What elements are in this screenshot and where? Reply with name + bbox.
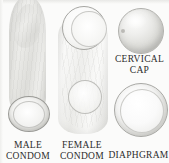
diaphragm-highlight (126, 92, 146, 105)
diaphragm-rim (114, 83, 168, 137)
caption-female-condom: FEMALE CONDOM (52, 140, 112, 162)
caption-diaphragm: DIAPHGRAM (108, 150, 169, 161)
caption-cervical-cap-line2: CAP (110, 65, 169, 76)
caption-diaphragm-line1: DIAPHGRAM (108, 150, 169, 161)
caption-female-condom-line1: FEMALE (52, 140, 112, 151)
female-condom-outer-ring (62, 6, 106, 50)
scan-edge-strip-left (0, 0, 3, 163)
caption-male-condom-line1: MALE (0, 140, 56, 151)
contraceptive-devices-figure: MALE CONDOM FEMALE CONDOM CERVICAL CAP D… (0, 0, 169, 163)
caption-female-condom-line2: CONDOM (52, 151, 112, 162)
cervical-cap-rim-notch (121, 29, 125, 33)
male-condom-base-ring-inner (13, 101, 45, 128)
caption-male-condom: MALE CONDOM (0, 140, 56, 162)
caption-cervical-cap: CERVICAL CAP (110, 54, 169, 76)
cervical-cap-illustration (118, 8, 162, 52)
female-condom-inner-ring (68, 80, 102, 114)
caption-cervical-cap-line1: CERVICAL (110, 54, 169, 65)
cervical-cap-highlight (125, 13, 147, 29)
female-condom-outer-ring-inner (71, 11, 107, 47)
male-condom-illustration (8, 0, 48, 132)
male-condom-base-ring (8, 96, 50, 132)
caption-male-condom-line2: CONDOM (0, 151, 56, 162)
diaphragm-illustration (114, 83, 166, 135)
female-condom-illustration (58, 6, 108, 134)
